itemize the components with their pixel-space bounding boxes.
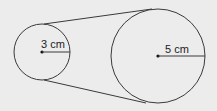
bottom-tangent-line <box>44 80 146 103</box>
small-radius-label: 3 cm <box>41 38 65 50</box>
large-radius-label: 5 cm <box>165 43 189 55</box>
top-tangent-line <box>44 9 152 24</box>
belt-pulley-diagram: 3 cm 5 cm <box>0 0 217 111</box>
